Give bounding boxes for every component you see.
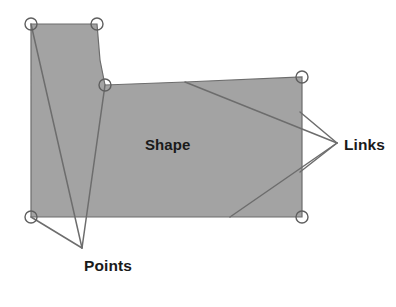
points-label: Points (84, 257, 132, 274)
diagram-canvas: Shape Points Links (0, 0, 396, 307)
points-line-bottom-left (31, 217, 82, 248)
shape-label: Shape (145, 136, 191, 153)
links-label: Links (344, 136, 385, 153)
diagram-svg: Shape Points Links (0, 0, 396, 307)
vertex-handle-bottom-left[interactable] (25, 211, 37, 223)
vertex-handle-top-right-notch[interactable] (91, 18, 103, 30)
vertex-handle-inner-notch-corner[interactable] (99, 79, 111, 91)
vertex-handle-top-right[interactable] (296, 71, 308, 83)
link-line-right-upper (300, 112, 337, 143)
vertex-handle-bottom-right[interactable] (296, 211, 308, 223)
shape-polygon[interactable] (31, 24, 302, 217)
vertex-handle-top-left[interactable] (25, 18, 37, 30)
